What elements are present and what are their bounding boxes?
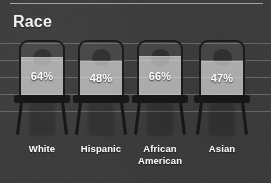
bar-fill [21, 57, 63, 97]
chair-shadow [29, 98, 55, 136]
chair-leg-right [61, 102, 68, 135]
chair-shadow [88, 98, 114, 136]
chair-back [78, 40, 124, 97]
chair-leg-left [75, 102, 82, 135]
chair-leg-left [134, 102, 141, 135]
chair-back [137, 40, 183, 97]
chair-leg-left [16, 102, 23, 135]
chart-canvas: Race 64%48%66%47% WhiteHispanicAfricanAm… [0, 0, 271, 183]
bar-fill [139, 56, 181, 97]
chair-leg-right [120, 102, 127, 135]
category-label-line2: American [117, 155, 203, 167]
chair-shadow [209, 98, 235, 136]
chair-shadow [147, 98, 173, 136]
bar-fill [201, 61, 243, 97]
chair-bar-2[interactable]: 48% [73, 40, 129, 140]
category-label-4: Asian [179, 143, 265, 155]
bar-fill [80, 61, 122, 97]
chair-back [199, 40, 245, 97]
chair-leg-right [241, 102, 248, 135]
chair-bar-3[interactable]: 66% [132, 40, 188, 140]
category-label-line1: Asian [179, 143, 265, 155]
chair-bar-1[interactable]: 64% [14, 40, 70, 140]
chair-leg-left [196, 102, 203, 135]
chair-leg-right [179, 102, 186, 135]
chair-bar-4[interactable]: 47% [194, 40, 250, 140]
chair-back [19, 40, 65, 97]
